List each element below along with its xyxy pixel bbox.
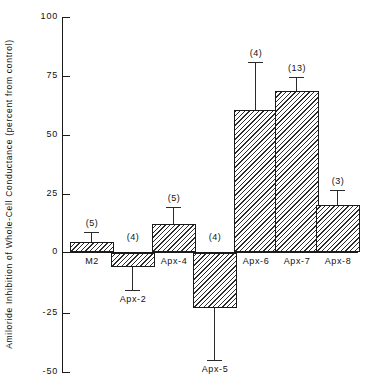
y-tick-75 — [62, 76, 70, 77]
errorbar-cap-apx-6 — [248, 62, 263, 63]
bar-m2 — [70, 242, 114, 252]
y-tick-100 — [62, 17, 70, 18]
errorbar-apx-8 — [337, 190, 338, 205]
category-label-apx-2: Apx-2 — [112, 294, 154, 304]
errorbar-apx-6 — [255, 62, 256, 110]
errorbar-m2 — [91, 232, 92, 242]
errorbar-apx-4 — [173, 207, 174, 224]
bar-apx-5 — [193, 253, 237, 308]
y-tick-minus50 — [62, 372, 70, 373]
errorbar-apx-2 — [132, 267, 133, 290]
bar-apx-2 — [111, 253, 155, 267]
category-label-apx-5: Apx-5 — [194, 364, 236, 374]
y-tick-25 — [62, 194, 70, 195]
y-tick-label-100: 100 — [14, 11, 58, 21]
bar-chart-figure: Amiloride Inhibition of Whole-Cell Condu… — [0, 0, 371, 388]
y-tick-label-75: 75 — [14, 70, 58, 80]
n-label-m2: (5) — [71, 218, 113, 228]
y-tick-minus25 — [62, 313, 70, 314]
y-tick-label-minus25: -25 — [14, 307, 58, 317]
category-label-apx-4: Apx-4 — [153, 256, 195, 266]
y-tick-label-25: 25 — [14, 188, 58, 198]
category-label-apx-6: Apx-6 — [235, 256, 277, 266]
y-tick-50 — [62, 135, 70, 136]
y-tick-label-50: 50 — [14, 129, 58, 139]
errorbar-cap-m2 — [84, 232, 99, 233]
category-label-apx-8: Apx-8 — [317, 256, 359, 266]
category-label-apx-7: Apx-7 — [276, 256, 318, 266]
errorbar-cap-apx-5 — [207, 360, 222, 361]
y-tick-label-0: 0 — [14, 246, 58, 256]
n-label-apx-5: (4) — [194, 232, 236, 242]
bar-apx-4 — [152, 224, 196, 252]
y-axis-line — [62, 17, 63, 373]
n-label-apx-2: (4) — [112, 232, 154, 242]
errorbar-cap-apx-7 — [289, 77, 304, 78]
bar-apx-6 — [234, 110, 278, 252]
n-label-apx-6: (4) — [235, 48, 277, 58]
errorbar-apx-7 — [296, 77, 297, 91]
errorbar-cap-apx-4 — [166, 207, 181, 208]
bar-apx-8 — [316, 205, 360, 252]
errorbar-cap-apx-8 — [330, 190, 345, 191]
category-label-m2: M2 — [71, 256, 113, 266]
n-label-apx-4: (5) — [153, 193, 195, 203]
bar-apx-7 — [275, 91, 319, 252]
y-tick-label-minus50: -50 — [14, 366, 58, 376]
errorbar-cap-apx-2 — [125, 290, 140, 291]
errorbar-apx-5 — [214, 308, 215, 360]
n-label-apx-7: (13) — [274, 63, 320, 73]
n-label-apx-8: (3) — [317, 176, 359, 186]
